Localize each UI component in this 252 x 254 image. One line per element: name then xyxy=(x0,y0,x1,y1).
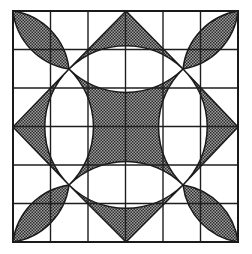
quilt-block-diagram xyxy=(0,0,252,254)
